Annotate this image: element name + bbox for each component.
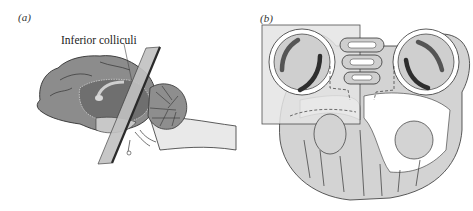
coronal-illustration <box>240 0 473 211</box>
brain-illustration <box>0 0 240 211</box>
panel-a-brain-sagittal: (a) Inferior colliculi <box>0 0 240 211</box>
panel-b-coronal-section: (b) <box>240 0 473 211</box>
